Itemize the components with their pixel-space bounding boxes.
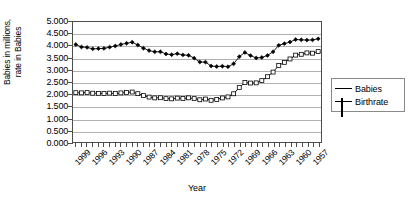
y-tick-label: 2.500: [26, 78, 68, 87]
data-point: [271, 70, 275, 74]
data-point: [316, 37, 320, 41]
y-tick-label: 3.000: [26, 65, 68, 74]
x-tick-mark: [98, 143, 99, 147]
data-point: [282, 42, 286, 46]
legend-label: Babies: [352, 84, 382, 94]
legend-item: Babies: [335, 82, 400, 95]
chart-figure: Babies in millions, rate in Babies 5.000…: [0, 0, 410, 202]
y-axis-tick-labels: 5.0004.5004.0003.5003.0002.5002.0001.500…: [26, 0, 68, 202]
x-tick-mark: [120, 143, 121, 147]
y-tick-label: 4.000: [26, 41, 68, 50]
x-tick-mark: [109, 143, 110, 147]
y-tick-mark: [68, 82, 73, 83]
data-point: [96, 91, 100, 95]
x-tick-label: 1990: [124, 148, 143, 167]
x-tick-mark: [188, 143, 189, 147]
data-point: [96, 47, 100, 51]
data-point: [113, 44, 117, 48]
x-tick-mark: [251, 143, 252, 147]
x-tick-label: 1960: [294, 148, 313, 167]
y-tick-mark: [68, 70, 73, 71]
x-tick-mark: [171, 143, 172, 147]
x-tick-mark: [234, 143, 235, 147]
y-tick-mark: [68, 33, 73, 34]
data-point: [164, 97, 168, 101]
data-point: [198, 98, 202, 102]
data-point: [220, 64, 224, 68]
data-point: [254, 56, 258, 60]
data-point: [85, 91, 89, 95]
y-tick-mark: [68, 45, 73, 46]
x-tick-mark: [137, 143, 138, 147]
data-point: [187, 96, 191, 100]
data-point: [158, 50, 162, 54]
x-tick-mark: [115, 143, 116, 147]
x-tick-mark: [262, 143, 263, 147]
open-square-icon: [335, 97, 352, 106]
x-tick-mark: [223, 143, 224, 147]
x-tick-mark: [183, 143, 184, 147]
data-point: [74, 91, 78, 95]
x-tick-mark: [194, 143, 195, 147]
data-point: [192, 97, 196, 101]
data-point: [249, 81, 253, 85]
data-point: [141, 94, 145, 98]
x-tick-mark: [245, 143, 246, 147]
data-point: [249, 54, 253, 58]
x-tick-label: 1975: [209, 148, 228, 167]
x-tick-mark: [160, 143, 161, 147]
data-point: [265, 75, 269, 79]
x-tick-label: 1978: [192, 148, 211, 167]
data-point: [175, 96, 179, 100]
data-point: [79, 45, 83, 49]
data-point: [305, 51, 309, 55]
data-point: [316, 50, 320, 54]
y-tick-label: 1.000: [26, 114, 68, 123]
y-tick-mark: [68, 131, 73, 132]
data-point: [181, 53, 185, 57]
data-point: [125, 41, 129, 45]
x-tick-mark: [103, 143, 104, 147]
x-tick-mark: [268, 143, 269, 147]
data-point: [170, 53, 174, 57]
data-point: [311, 51, 315, 55]
data-point: [294, 38, 298, 42]
data-point: [91, 91, 95, 95]
x-tick-mark: [228, 143, 229, 147]
data-point: [181, 97, 185, 101]
series-line: [76, 39, 318, 67]
y-tick-mark: [68, 119, 73, 120]
plot-area: [72, 21, 322, 143]
data-point: [260, 56, 264, 60]
data-point: [130, 90, 134, 94]
data-point: [153, 50, 157, 54]
y-axis-title: Babies in millions, rate in Babies: [2, 0, 26, 112]
data-point: [91, 47, 95, 51]
data-point: [136, 92, 140, 96]
y-tick-label: 3.500: [26, 53, 68, 62]
data-point: [187, 53, 191, 57]
x-tick-label: 1999: [73, 148, 92, 167]
data-point: [136, 43, 140, 47]
x-tick-label: 1957: [311, 148, 330, 167]
x-tick-mark: [211, 143, 212, 147]
data-point: [153, 96, 157, 100]
data-point: [102, 46, 106, 50]
data-point: [226, 65, 230, 69]
y-tick-label: 5.000: [26, 17, 68, 26]
series-birthrate: [74, 50, 320, 103]
data-point: [237, 86, 241, 90]
x-tick-mark: [257, 143, 258, 147]
x-tick-label: 1981: [175, 148, 194, 167]
series-line: [76, 52, 318, 101]
data-point: [164, 52, 168, 56]
y-tick-label: 0.500: [26, 126, 68, 135]
data-point: [119, 91, 123, 95]
x-tick-mark: [217, 143, 218, 147]
data-point: [226, 95, 230, 99]
x-tick-mark: [285, 143, 286, 147]
data-point: [74, 43, 78, 47]
y-axis-title-line2: rate in Babies: [13, 0, 24, 112]
series-canvas: [73, 22, 321, 142]
data-point: [232, 92, 236, 96]
